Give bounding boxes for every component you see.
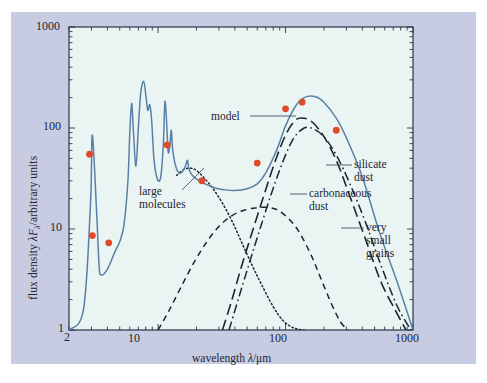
y-axis-label: flux density λFλ/arbitrary units — [27, 156, 43, 300]
annotation-very-small-grains-line3: grains — [366, 247, 394, 259]
annotation-large-molecules-line2: molecules — [139, 198, 186, 210]
annotation-model: model — [211, 110, 240, 123]
x-tick-label-1000: 1000 — [395, 332, 419, 345]
y-axis-label-F: F — [27, 229, 39, 236]
y-tick-label-1000: 1000 — [36, 20, 60, 33]
data-point — [198, 177, 205, 184]
data-point — [282, 105, 289, 112]
figure-container: flux density λFλ/arbitrary units wavelen… — [0, 0, 487, 383]
x-axis-label: wavelength λ/μm — [192, 352, 271, 365]
annotation-very-small-grains-line2: small — [366, 234, 391, 246]
annotation-large-molecules-line1: large — [139, 185, 162, 197]
x-tick-label-2: 2 — [64, 331, 70, 344]
y-axis-label-text2: /arbitrary units — [27, 156, 39, 226]
annotation-carbonaceous-dust: carbonaceousdust — [309, 187, 372, 213]
data-point — [333, 127, 340, 134]
data-point — [254, 160, 261, 167]
annotation-large-molecules: largemolecules — [139, 185, 186, 211]
y-axis-label-text1: flux density — [27, 241, 39, 300]
x-axis-label-text1: wavelength — [192, 352, 248, 364]
annotation-silicate-dust: silicatedust — [354, 158, 387, 184]
y-axis-label-sub: λ — [33, 225, 42, 229]
data-point — [86, 151, 93, 158]
annotation-silicate-dust-line2: dust — [354, 171, 373, 183]
data-point — [89, 232, 96, 239]
x-tick-label-10: 10 — [128, 332, 140, 345]
annotation-carbonaceous-dust-line2: dust — [309, 200, 328, 212]
x-axis-label-text2: /μm — [253, 352, 271, 364]
y-tick-label-10: 10 — [50, 221, 62, 234]
x-tick-label-100: 100 — [269, 332, 287, 345]
annotation-very-small-grains-line1: very — [366, 221, 386, 233]
annotation-very-small-grains: verysmallgrains — [366, 221, 394, 260]
annotation-silicate-dust-line1: silicate — [354, 158, 387, 170]
y-tick-label-100: 100 — [43, 120, 61, 133]
data-point — [105, 239, 112, 246]
spectral-energy-distribution-chart — [0, 0, 487, 383]
annotation-carbonaceous-dust-line1: carbonaceous — [309, 187, 372, 199]
data-point — [164, 142, 171, 149]
y-axis-label-lambda: λ — [27, 236, 39, 241]
data-point — [299, 99, 306, 106]
